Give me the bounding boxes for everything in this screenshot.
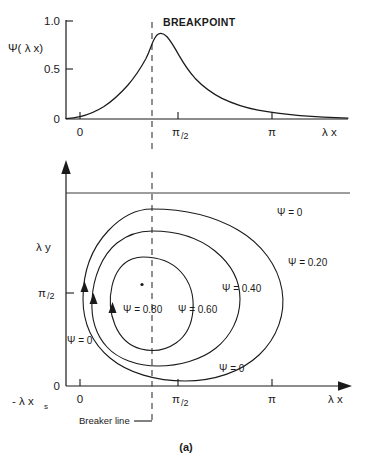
bottom-x-tick-label-pi-half: π /2 [172, 393, 189, 408]
contour-label-psi-0-bottom: Ψ = 0 [219, 363, 245, 374]
bottom-y-tick-label-pi-half: π /2 [38, 287, 55, 301]
bottom-x-axis-arrow-icon [338, 381, 352, 390]
psi-profile-curve [66, 33, 348, 118]
breaker-line-label: Breaker line [79, 415, 130, 426]
origin-offset-label: - λ x s [12, 395, 48, 411]
bottom-y-axis-label: λ y [36, 241, 51, 253]
top-x-tick-label-pi: π [268, 126, 276, 138]
origin-offset-subscript: s [44, 402, 48, 411]
top-y-tick-label-0: 0 [54, 113, 60, 125]
top-panel-profile-chart: 1.0 0.5 0 Ψ( λ x) 0 π /2 π λ x BREAKPOIN… [8, 15, 348, 150]
bottom-x-axis-label: λ x [328, 393, 343, 405]
top-y-tick-label-0.5: 0.5 [44, 63, 60, 75]
contour-label-psi-0-top-right: Ψ = 0 [277, 207, 303, 218]
top-x-tick-label-0: 0 [77, 126, 83, 138]
panel-caption: (a) [179, 441, 193, 453]
figure-svg: 1.0 0.5 0 Ψ( λ x) 0 π /2 π λ x BREAKPOIN… [0, 0, 372, 464]
bottom-panel-contour-chart: π /2 0 λ y 0 π /2 π λ x - λ x s [12, 160, 352, 426]
top-x-tick-half-glyph: /2 [181, 131, 189, 141]
bottom-x-tick-pi-glyph: π [172, 393, 180, 405]
origin-offset-main: - λ x [12, 395, 34, 407]
contour-psi-0.40 [92, 231, 240, 366]
contour-label-psi-0-left: Ψ = 0 [67, 335, 93, 346]
contour-label-psi-0.20: Ψ = 0.20 [288, 257, 328, 268]
bottom-x-tick-label-0: 0 [77, 393, 83, 405]
contour-label-psi-0.80: Ψ = 0.80 [123, 304, 163, 315]
flow-arrow-icon-outer [81, 281, 89, 292]
bottom-y-tick-half-glyph: /2 [47, 291, 55, 301]
contour-label-psi-0.40: Ψ = 0.40 [222, 283, 262, 294]
bottom-x-tick-half-glyph: /2 [181, 398, 189, 408]
top-x-tick-pi-glyph: π [172, 126, 180, 138]
bottom-y-tick-label-0: 0 [54, 380, 60, 392]
flow-arrow-icon-middle [90, 293, 98, 304]
top-y-axis-label: Ψ( λ x) [8, 42, 43, 54]
top-x-axis-label: λ x [322, 126, 337, 138]
breakpoint-label: BREAKPOINT [163, 16, 236, 28]
top-y-tick-label-1.0: 1.0 [44, 15, 60, 27]
contour-label-psi-0.60: Ψ = 0.60 [178, 304, 218, 315]
top-x-tick-label-pi-half: π /2 [172, 126, 189, 141]
figure-container: 1.0 0.5 0 Ψ( λ x) 0 π /2 π λ x BREAKPOIN… [0, 0, 372, 464]
bottom-y-axis-arrow-icon [61, 160, 70, 174]
bottom-y-tick-pi-glyph: π [38, 287, 46, 299]
flow-arrow-icon-inner [109, 302, 117, 313]
bottom-x-tick-label-pi: π [268, 393, 276, 405]
center-maximum-dot [140, 283, 143, 286]
